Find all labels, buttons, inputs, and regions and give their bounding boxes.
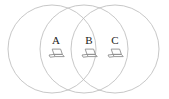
- node-a-label: A: [43, 35, 69, 46]
- node-b: B: [76, 35, 102, 61]
- node-c: C: [102, 35, 128, 61]
- laptop-icon: [105, 47, 125, 61]
- laptop-icon: [79, 47, 99, 61]
- venn-diagram-figure: A B C: [0, 0, 169, 99]
- laptop-icon: [46, 47, 66, 61]
- node-c-label: C: [102, 35, 128, 46]
- node-a: A: [43, 35, 69, 61]
- node-b-label: B: [76, 35, 102, 46]
